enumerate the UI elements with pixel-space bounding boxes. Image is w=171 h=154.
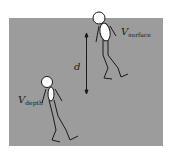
diving-depth-diagram: d Vsurface Vdepth [0,0,171,154]
distance-label: d [74,61,80,72]
